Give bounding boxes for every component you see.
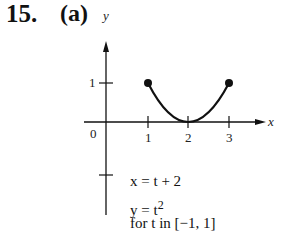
x-tick-3: 3 <box>226 130 233 145</box>
endpoint-left <box>144 79 152 87</box>
equation-x: x = t + 2 <box>130 173 181 190</box>
endpoint-right <box>225 79 233 87</box>
parameter-range: for t in [−1, 1] <box>130 215 216 232</box>
x-tick-1: 1 <box>145 130 152 145</box>
y-axis-arrow-icon <box>103 41 109 52</box>
x-tick-2: 2 <box>185 130 192 145</box>
x-axis-label: x <box>267 114 274 129</box>
y-axis-label: y <box>101 8 109 23</box>
origin-label: 0 <box>90 126 97 141</box>
y-tick-1: 1 <box>89 75 96 90</box>
x-axis-arrow-icon <box>255 119 266 125</box>
